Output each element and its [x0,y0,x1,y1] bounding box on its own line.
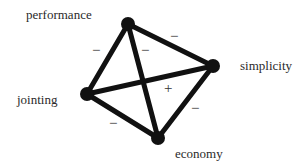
label-performance: performance [26,7,92,23]
node-economy [151,131,165,145]
sign-simplicity-economy: − [191,101,199,116]
sign-jointing-economy: − [109,116,117,131]
node-jointing [80,87,94,101]
label-jointing: jointing [17,92,57,108]
node-performance [121,17,135,31]
label-economy: economy [175,146,223,162]
sign-performance-economy: − [141,43,149,58]
sign-jointing-simplicity: + [164,81,172,96]
diagram-canvas [0,0,307,168]
sign-performance-jointing: − [92,43,100,58]
node-simplicity [206,59,220,73]
label-simplicity: simplicity [240,58,292,74]
sign-performance-simplicity: − [170,29,178,44]
edge-performance-jointing [87,24,128,94]
